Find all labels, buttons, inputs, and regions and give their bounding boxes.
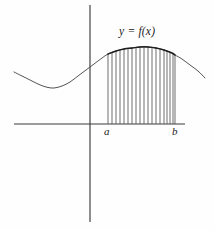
function-curve-highlight bbox=[108, 47, 175, 55]
ordinate-lines-group bbox=[108, 47, 175, 124]
upper-bound-label: b bbox=[172, 126, 178, 137]
lower-bound-label: a bbox=[104, 126, 110, 137]
figure-canvas bbox=[0, 0, 214, 230]
curve-label: y = f(x) bbox=[119, 26, 155, 38]
axes-group bbox=[14, 5, 185, 222]
integral-area-figure: y = f(x) a b bbox=[0, 0, 214, 230]
